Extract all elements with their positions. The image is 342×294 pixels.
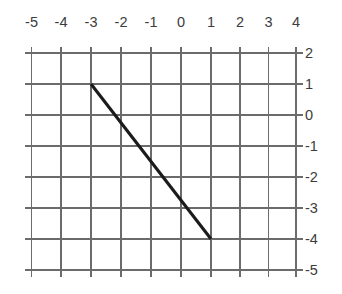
y-axis-tick-label-1: 1: [305, 76, 313, 92]
y-axis-tick-label-0: 0: [305, 107, 313, 123]
x-axis-tick-label--3: -3: [85, 14, 98, 30]
x-axis-tick-label--1: -1: [145, 14, 158, 30]
coordinate-plane-chart: -5-4-3-2-101234 210-1-2-3-4-5: [0, 0, 342, 294]
y-axis-tick-label--3: -3: [305, 200, 318, 216]
y-axis-tick-label--4: -4: [305, 231, 318, 247]
x-axis-tick-label-3: 3: [264, 14, 272, 30]
x-axis-tick-label--5: -5: [25, 14, 38, 30]
x-axis-tick-label-2: 2: [236, 14, 244, 30]
x-axis-tick-label-0: 0: [177, 14, 185, 30]
y-axis-tick-label-2: 2: [305, 45, 313, 61]
y-axis-tick-label--5: -5: [305, 262, 318, 278]
x-axis-tick-label--4: -4: [55, 14, 68, 30]
y-axis-tick-label--2: -2: [305, 169, 318, 185]
chart-background: [0, 0, 342, 294]
x-axis-tick-label-1: 1: [207, 14, 215, 30]
coordinate-grid-figure: -5-4-3-2-101234 210-1-2-3-4-5: [0, 0, 342, 294]
x-axis-tick-label-4: 4: [292, 14, 300, 30]
x-axis-tick-label--2: -2: [115, 14, 128, 30]
y-axis-tick-label--1: -1: [305, 138, 318, 154]
